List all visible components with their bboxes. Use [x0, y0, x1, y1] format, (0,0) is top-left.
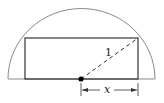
- semicircle-rectangle-diagram: 1 x: [0, 0, 164, 103]
- arrowhead-right-icon: [131, 88, 137, 92]
- half-width-label: x: [104, 83, 111, 96]
- center-point: [78, 76, 83, 81]
- semicircle-arc: [8, 9, 155, 79]
- radius-label: 1: [105, 46, 112, 59]
- arrowhead-left-icon: [82, 88, 88, 92]
- inscribed-rectangle: [25, 38, 138, 79]
